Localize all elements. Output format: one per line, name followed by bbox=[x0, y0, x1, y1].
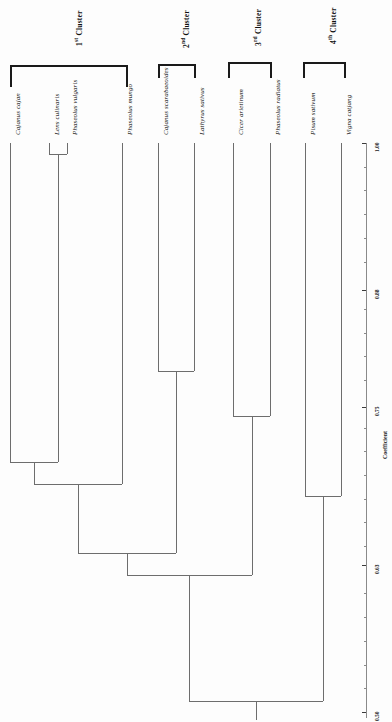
axis-tick-minor bbox=[364, 522, 366, 523]
taxon-label: Lathyrus sativus bbox=[198, 87, 206, 135]
tree-branch-vertical bbox=[10, 143, 11, 462]
axis-tick-minor bbox=[364, 333, 366, 334]
tree-branch-vertical bbox=[323, 496, 324, 701]
axis-tick-minor bbox=[364, 380, 366, 381]
taxon-label: Lens culinaris bbox=[53, 94, 61, 135]
axis-tick-label: 0.50 bbox=[374, 711, 380, 721]
taxon-label: Cicer arietinum bbox=[237, 89, 245, 135]
cluster-label-1: 1st Cluster bbox=[73, 10, 84, 46]
dendrogram-figure: 1st Cluster2nd Cluster3rd Cluster4th Clu… bbox=[0, 0, 392, 722]
tree-branch-vertical bbox=[34, 462, 35, 485]
axis-tick-label: 0.75 bbox=[374, 406, 380, 416]
axis-tick-minor bbox=[364, 309, 366, 310]
axis-tick-label: 1.00 bbox=[374, 142, 380, 152]
axis-title: Coefficient bbox=[382, 431, 388, 459]
axis-tick-minor bbox=[364, 356, 366, 357]
taxon-label: Phaseolus vulgaris bbox=[71, 80, 79, 135]
tree-branch-vertical bbox=[252, 416, 253, 575]
tree-branch-vertical bbox=[305, 143, 306, 496]
tree-branch-vertical bbox=[67, 143, 68, 154]
tree-branch-vertical bbox=[122, 143, 123, 484]
tree-branch-vertical bbox=[194, 143, 195, 371]
tree-branch-vertical bbox=[233, 143, 234, 416]
axis-tick-minor bbox=[364, 641, 366, 642]
tree-branch-vertical bbox=[341, 143, 342, 496]
axis-tick-minor bbox=[364, 475, 366, 476]
taxon-label: Phaseolus radiatus bbox=[274, 79, 282, 135]
taxon-label: Cajanus cajan bbox=[14, 93, 22, 135]
axis-tick-minor bbox=[364, 238, 366, 239]
axis-tick-minor bbox=[364, 214, 366, 215]
taxon-label: Vigna catjang bbox=[345, 95, 353, 135]
axis-tick-major bbox=[362, 712, 366, 713]
tree-branch-vertical bbox=[127, 553, 128, 576]
tree-branch-vertical bbox=[270, 143, 271, 416]
axis-tick-label: 0.88 bbox=[374, 289, 380, 299]
cluster-bracket-4 bbox=[303, 62, 346, 78]
axis-tick-minor bbox=[364, 593, 366, 594]
taxon-label: Phaseolus mungo bbox=[126, 84, 134, 135]
tree-branch-vertical bbox=[49, 143, 50, 154]
tree-branch-vertical bbox=[158, 143, 159, 371]
axis-tick-major bbox=[362, 565, 366, 566]
axis-line bbox=[366, 143, 367, 718]
taxon-label: Cajanus scarabaeoides bbox=[162, 67, 170, 135]
axis-tick-major bbox=[362, 143, 366, 144]
axis-tick-minor bbox=[364, 546, 366, 547]
tree-branch-vertical bbox=[189, 575, 190, 700]
tree-branch-vertical bbox=[58, 154, 59, 461]
axis-tick-minor bbox=[364, 665, 366, 666]
cluster-label-3: 3rd Cluster bbox=[252, 9, 263, 46]
tree-branch-vertical bbox=[176, 371, 177, 553]
axis-tick-major bbox=[362, 290, 366, 291]
axis-tick-minor bbox=[364, 167, 366, 168]
axis-tick-minor bbox=[364, 428, 366, 429]
axis-tick-minor bbox=[364, 499, 366, 500]
tree-root-stem bbox=[256, 701, 257, 720]
cluster-label-2: 2nd Cluster bbox=[180, 10, 191, 48]
axis-tick-label: 0.63 bbox=[374, 564, 380, 574]
cluster-label-4: 4th Cluster bbox=[327, 8, 338, 44]
taxon-label: Pisum sativum bbox=[309, 93, 317, 135]
cluster-bracket-1 bbox=[10, 65, 128, 87]
axis-tick-minor bbox=[364, 688, 366, 689]
axis-tick-minor bbox=[364, 190, 366, 191]
cluster-bracket-3 bbox=[228, 62, 272, 78]
axis-tick-minor bbox=[364, 262, 366, 263]
tree-branch-vertical bbox=[78, 484, 79, 552]
axis-tick-minor bbox=[364, 451, 366, 452]
axis-tick-minor bbox=[364, 617, 366, 618]
axis-tick-major bbox=[362, 407, 366, 408]
